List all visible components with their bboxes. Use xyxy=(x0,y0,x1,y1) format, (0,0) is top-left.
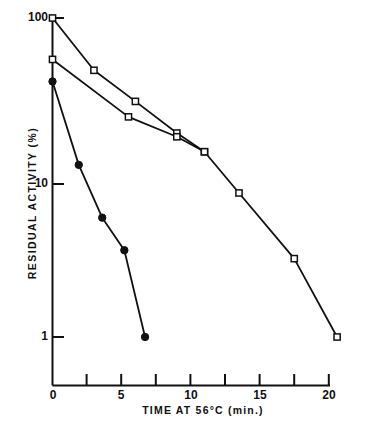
data-point-open-square xyxy=(291,256,297,262)
data-point-open-square xyxy=(125,114,131,120)
y-tick-label-100: 100 xyxy=(8,10,48,24)
data-point-open-square xyxy=(201,149,207,155)
data-point-filled-circle xyxy=(121,247,128,254)
plot-area xyxy=(0,0,367,433)
x-tick-label-0: 0 xyxy=(44,388,62,402)
figure-semilog-inactivation-plot: 100 10 1 0 5 10 15 20 RESIDUAL ACTIVITY … xyxy=(0,0,367,433)
series-open-squares-lower xyxy=(49,56,207,155)
x-axis-title: TIME AT 56°C (min.) xyxy=(63,404,343,416)
x-axis-ticks xyxy=(87,374,329,386)
data-point-open-square xyxy=(49,56,55,62)
data-series-layer xyxy=(49,15,340,341)
data-point-open-square xyxy=(49,15,55,21)
series-open-squares-upper xyxy=(49,15,340,340)
series-line xyxy=(53,59,205,151)
y-tick-label-1: 1 xyxy=(8,329,48,343)
data-point-open-square xyxy=(91,67,97,73)
data-point-open-square xyxy=(334,334,340,340)
x-tick-label-5: 5 xyxy=(112,388,130,402)
data-point-filled-circle xyxy=(99,214,106,221)
series-filled-circles xyxy=(49,78,149,341)
x-tick-label-15: 15 xyxy=(249,388,271,402)
x-tick-label-10: 10 xyxy=(180,388,202,402)
data-point-filled-circle xyxy=(141,333,148,340)
x-tick-label-20: 20 xyxy=(318,388,340,402)
series-line xyxy=(53,18,338,337)
data-point-filled-circle xyxy=(49,78,56,85)
data-point-filled-circle xyxy=(75,161,82,168)
y-axis-title: RESIDUAL ACTIVITY (%) xyxy=(26,108,38,298)
data-point-open-square xyxy=(174,134,180,140)
data-point-open-square xyxy=(132,98,138,104)
data-point-open-square xyxy=(236,190,242,196)
